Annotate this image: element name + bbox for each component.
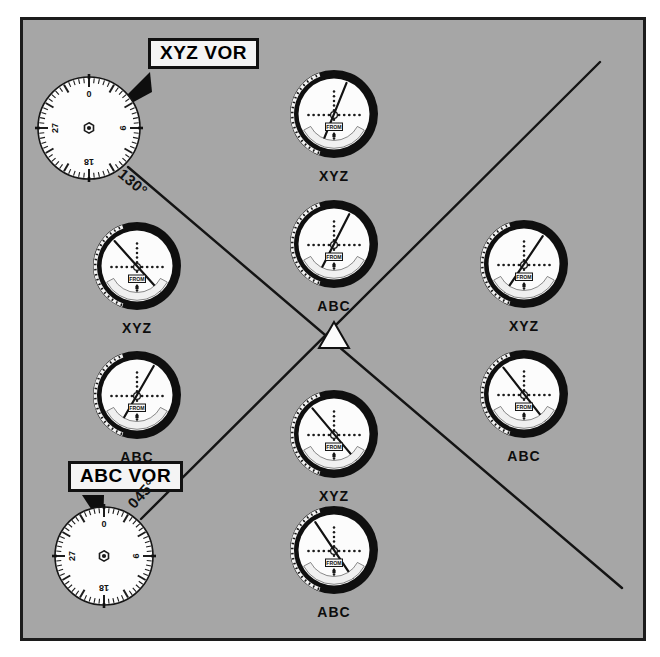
- ind-lower-mid-xyz-cdi-dot: [343, 434, 346, 437]
- ind-top-xyz-cdi-dot: [348, 114, 351, 117]
- ind-lower-mid-xyz-vertical-dot: [333, 457, 336, 460]
- indicator-label-ind-bottom-abc: ABC: [289, 604, 379, 620]
- callout-abc-vor: ABC VOR: [68, 461, 183, 492]
- ind-right-abc[interactable]: FROM: [480, 350, 568, 438]
- ind-bottom-abc-vertical-dot: [333, 536, 336, 539]
- ind-left-abc-card-tick: [116, 430, 117, 432]
- ind-top-xyz[interactable]: FROM: [290, 70, 378, 158]
- ind-left-abc-cdi-dot: [110, 395, 113, 398]
- ind-lower-mid-xyz-card-tick: [293, 422, 295, 423]
- ind-bottom-abc-vertical-dot: [333, 540, 336, 543]
- ind-right-xyz-cdi-dot: [512, 264, 515, 267]
- ind-upper-mid-abc-vertical-dot: [333, 220, 336, 223]
- ind-bottom-abc-card-tick: [293, 563, 295, 564]
- ind-left-abc-card-tick: [96, 408, 98, 409]
- abc-station-cardinal: 18: [99, 583, 109, 593]
- ind-left-abc[interactable]: FROM: [93, 351, 181, 439]
- ind-bottom-abc[interactable]: FROM: [290, 506, 378, 594]
- ind-top-xyz-vertical-dot: [333, 95, 336, 98]
- indicator-label-ind-lower-mid-xyz: XYZ: [289, 488, 379, 504]
- ind-right-xyz-card-tick: [482, 272, 484, 273]
- xyz-station-tick: [134, 123, 139, 124]
- indicator-label-ind-right-xyz: XYZ: [479, 318, 569, 334]
- ind-bottom-abc-vertical-dot: [333, 526, 336, 529]
- ind-top-xyz-card-tick: [295, 132, 297, 133]
- ind-top-xyz-cdi-dot: [343, 114, 346, 117]
- ind-lower-mid-xyz-obs-marker: [332, 454, 335, 457]
- ind-bottom-abc-cdi-dot: [348, 550, 351, 553]
- ind-left-xyz-card-tick: [116, 301, 117, 303]
- ind-bottom-abc-flag-text: FROM: [326, 560, 341, 566]
- ind-right-xyz-vertical-dot: [523, 240, 526, 243]
- ind-left-abc-card-tick: [95, 403, 97, 404]
- ind-left-abc-cdi-dot: [151, 395, 154, 398]
- indicator-label-ind-top-xyz: XYZ: [289, 168, 379, 184]
- ind-right-xyz-vertical-dot: [523, 250, 526, 253]
- ind-bottom-abc-cdi-dot: [317, 550, 320, 553]
- ind-bottom-abc-card-tick: [313, 585, 314, 587]
- ind-left-xyz-card-tick: [96, 254, 98, 255]
- ind-left-xyz-cdi-dot: [115, 266, 118, 269]
- ind-left-xyz-cdi-dot: [161, 266, 164, 269]
- ind-left-xyz-card-tick: [97, 249, 99, 250]
- ind-bottom-abc-card-tick: [295, 568, 297, 569]
- ind-lower-mid-xyz-card-tick: [293, 447, 295, 448]
- ind-left-xyz-cdi-dot: [125, 266, 128, 269]
- ind-left-xyz-cdi-dot: [131, 266, 134, 269]
- ind-left-xyz-vertical-dot: [136, 270, 139, 273]
- xyz-station-tick: [39, 133, 44, 134]
- ind-right-xyz-cdi-dot: [528, 264, 531, 267]
- ind-lower-mid-xyz-vertical-dot: [333, 424, 336, 427]
- ind-right-abc-cdi-dot: [497, 394, 500, 397]
- ind-right-xyz-flag-text: FROM: [516, 274, 531, 280]
- ind-right-xyz-card-tick: [503, 299, 504, 301]
- ind-left-xyz-card-tick: [121, 304, 122, 306]
- ind-lower-mid-xyz-card-tick: [292, 442, 294, 443]
- ind-left-xyz-cdi-dot: [146, 266, 149, 269]
- ind-top-xyz-cdi-dot: [328, 114, 331, 117]
- ind-right-xyz-cdi-dot: [518, 264, 521, 267]
- ind-right-abc-vertical-dot: [523, 370, 526, 373]
- ind-top-xyz-vertical-dot: [333, 137, 336, 140]
- abc-station-tick: [147, 551, 152, 552]
- ind-lower-mid-xyz-cdi-dot: [338, 434, 341, 437]
- ind-right-abc-card-tick: [485, 412, 487, 413]
- ind-upper-mid-abc[interactable]: FROM: [290, 200, 378, 288]
- ind-lower-mid-xyz-cdi-dot: [322, 434, 325, 437]
- ind-right-xyz-cdi-dot: [538, 264, 541, 267]
- xyz-station-cardinal: 9: [118, 125, 128, 130]
- ind-upper-mid-abc-vertical-dot: [333, 248, 336, 251]
- ind-right-xyz-cdi-dot: [507, 264, 510, 267]
- ind-left-abc-cdi-dot: [161, 395, 164, 398]
- ind-left-xyz-cdi-dot: [151, 266, 154, 269]
- ind-upper-mid-abc-cdi-dot: [348, 244, 351, 247]
- ind-top-xyz-card-tick: [318, 152, 319, 154]
- ind-lower-mid-xyz[interactable]: FROM: [290, 390, 378, 478]
- ind-upper-mid-abc-cdi-dot: [317, 244, 320, 247]
- ind-lower-mid-xyz-vertical-dot: [333, 429, 336, 432]
- ind-bottom-abc-vertical-dot: [333, 573, 336, 576]
- ind-upper-mid-abc-card-tick: [293, 232, 295, 233]
- ind-left-xyz[interactable]: FROM: [93, 222, 181, 310]
- ind-left-xyz-cdi-dot: [120, 266, 123, 269]
- abc-station-cardinal: 27: [67, 551, 77, 561]
- ind-right-xyz[interactable]: FROM: [480, 220, 568, 308]
- ind-left-abc-obs-marker: [135, 415, 138, 418]
- ind-top-xyz-cdi-dot: [317, 114, 320, 117]
- xyz-station-cardinal: 0: [86, 89, 91, 99]
- ind-left-abc-card-tick: [119, 356, 120, 358]
- ind-bottom-abc-cdi-dot: [307, 550, 310, 553]
- ind-right-xyz-obs-marker: [522, 284, 525, 287]
- ind-right-xyz-card-tick: [483, 277, 485, 278]
- ind-right-abc-cdi-dot: [518, 394, 521, 397]
- ind-bottom-abc-card-tick: [292, 558, 294, 559]
- ind-upper-mid-abc-cdi-dot: [307, 244, 310, 247]
- ind-right-abc-vertical-dot: [523, 417, 526, 420]
- ind-upper-mid-abc-cdi-dot: [343, 244, 346, 247]
- abc-station-tick: [108, 508, 109, 513]
- ind-top-xyz-card-tick: [313, 149, 314, 151]
- ind-upper-mid-abc-cdi-dot: [353, 244, 356, 247]
- ind-right-xyz-card-tick: [508, 302, 509, 304]
- ind-right-abc-cdi-dot: [512, 394, 515, 397]
- ind-left-abc-vertical-dot: [136, 376, 139, 379]
